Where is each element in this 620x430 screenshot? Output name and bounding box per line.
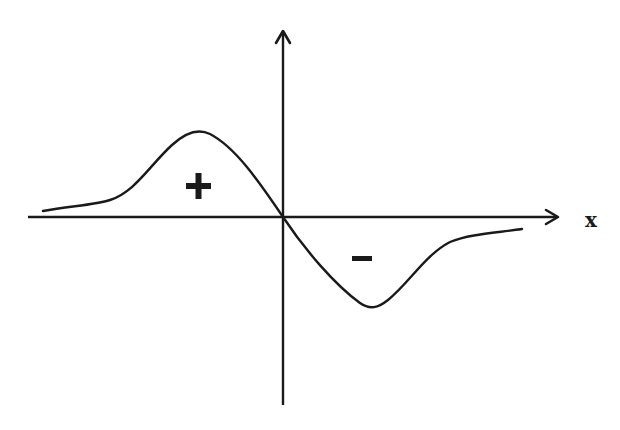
- positive-region-sign: [186, 173, 211, 199]
- odd-function-diagram: + − x: [0, 0, 620, 430]
- negative-region-sign: [352, 256, 372, 261]
- x-axis-label: x: [585, 208, 598, 232]
